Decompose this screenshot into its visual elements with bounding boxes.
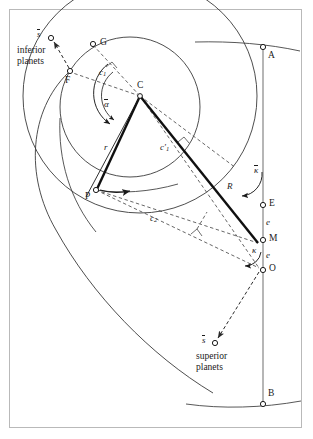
arrow-motion-at-P [100, 190, 130, 192]
angle-arc-alpha-inner [101, 72, 114, 120]
marker-A [260, 44, 265, 49]
vector-r [97, 96, 140, 189]
marker-P [93, 187, 98, 192]
diagram-svg [0, 0, 313, 439]
marker-M [260, 237, 265, 242]
arc-eccentric-circle [23, 0, 257, 213]
line-C-alpha-side [86, 96, 140, 197]
arrow-superior-direction [218, 272, 259, 338]
angle-arc-kappa-bar [242, 172, 262, 196]
right-angle-mark-c1-prime [178, 137, 189, 143]
dashed-C-to-O [140, 96, 259, 268]
dashed-P-to-O [96, 190, 259, 268]
point-markers [48, 35, 265, 406]
marker-O [260, 267, 265, 272]
arc-inner-lower [60, 118, 96, 232]
marker-F [67, 68, 72, 73]
dashed-C-to-F [70, 72, 140, 96]
marker-G [90, 41, 95, 46]
marker-C [138, 94, 143, 99]
marker-s-bar-inferior [48, 35, 53, 40]
arrow-inferior-direction [54, 42, 69, 68]
marker-s-bar-superior [212, 340, 217, 345]
arc-left-sweep [35, 73, 213, 393]
marker-E [260, 202, 265, 207]
arc-p-right [96, 184, 178, 192]
marker-B [260, 401, 265, 406]
figure-canvas: inferior planets superior planets s s A … [0, 0, 313, 439]
dashed-P-to-M [96, 190, 258, 243]
arc-epicycle-circle [60, 37, 200, 177]
